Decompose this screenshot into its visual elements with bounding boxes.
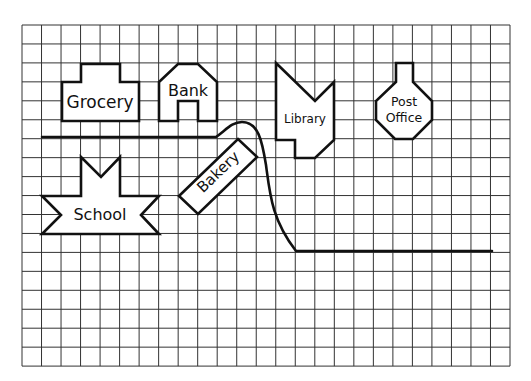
library-outline [276,63,334,158]
bank-label: Bank [168,81,209,100]
town-map: GroceryBankLibraryPostOfficeSchoolBakery [0,0,531,381]
building-post-office: PostOffice [376,63,432,139]
school-label: School [73,205,126,224]
building-library: Library [276,63,334,158]
building-bank: Bank [159,64,217,121]
post-office-label: Post [391,94,417,109]
post-office-label: Office [386,110,423,125]
library-label: Library [284,112,326,126]
grocery-label: Grocery [66,92,133,112]
building-grocery: Grocery [62,64,139,121]
